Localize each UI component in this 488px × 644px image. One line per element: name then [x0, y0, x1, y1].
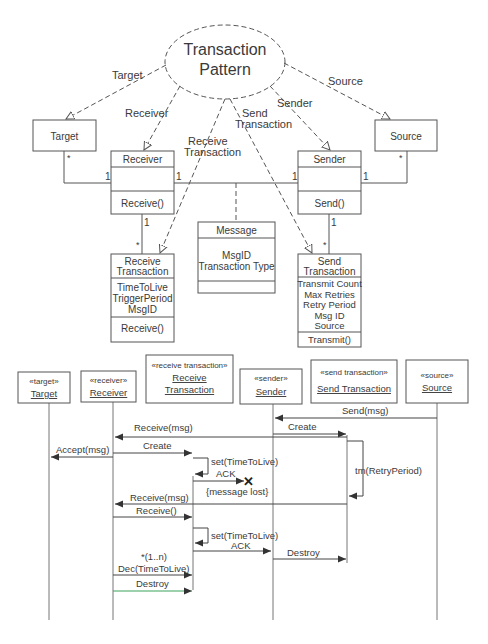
class-message-attr: MsgID	[222, 250, 251, 261]
sequence-diagram: «target» Target «receiver» Receiver «rec…	[18, 355, 468, 620]
svg-text:Create: Create	[288, 421, 317, 432]
messages: Send(msg) Create Receive(msg) Accept(msg…	[51, 405, 437, 591]
svg-text:Receive(msg): Receive(msg)	[134, 422, 193, 433]
class-diagram: Transaction Pattern Target Receiver Rece…	[33, 25, 437, 347]
svg-text:Target: Target	[31, 388, 58, 399]
class-receive-transaction: Receive Transaction TimeToLive TriggerPe…	[111, 254, 174, 342]
class-sender: Sender Send()	[298, 151, 361, 214]
multiplicity-sender-right: 1	[363, 171, 369, 182]
class-message: Message MsgID Transaction Type	[198, 222, 275, 293]
class-send-transaction-name: Transaction	[304, 266, 356, 277]
svg-text:Receive(msg): Receive(msg)	[130, 492, 189, 503]
svg-text:Send Transaction: Send Transaction	[317, 383, 391, 394]
class-receiver-name: Receiver	[123, 154, 163, 165]
class-target-name: Target	[51, 131, 79, 142]
class-send-transaction-attr: Max Retries	[304, 289, 355, 300]
svg-text:Create: Create	[143, 440, 172, 451]
svg-text:Destroy: Destroy	[136, 578, 169, 589]
lifeline-target: «target» Target	[18, 372, 70, 403]
class-message-name: Message	[216, 225, 257, 236]
svg-text:Receive: Receive	[172, 372, 206, 383]
svg-text:Receive(): Receive()	[136, 505, 177, 516]
class-receive-transaction-attr: TriggerPeriod	[112, 293, 172, 304]
svg-text:ACK: ACK	[216, 468, 236, 479]
svg-text:«target»: «target»	[29, 377, 59, 386]
lifelines	[49, 402, 437, 620]
class-send-transaction-attr: Retry Period	[303, 299, 356, 310]
class-send-transaction-operation: Transmit()	[308, 334, 351, 345]
class-receiver: Receiver Receive()	[111, 151, 174, 214]
class-receive-transaction-attr: TimeToLive	[117, 282, 168, 293]
class-receiver-operation: Receive()	[121, 198, 164, 209]
svg-text:{message lost}: {message lost}	[206, 486, 268, 497]
receive-transaction-role-label-2: Transaction	[184, 146, 241, 158]
svg-text:Transaction: Transaction	[165, 384, 214, 395]
lifeline-source: «source» Source	[406, 360, 468, 403]
class-send-transaction: Send Transaction Transmit Count Max Retr…	[297, 254, 362, 347]
class-source: Source	[375, 120, 437, 151]
svg-text:set(TimeToLive): set(TimeToLive)	[211, 456, 278, 467]
class-receive-transaction-attr: MsgID	[128, 304, 157, 315]
svg-text:«send transaction»: «send transaction»	[320, 368, 388, 377]
pattern-title-line2: Pattern	[199, 61, 251, 78]
class-receive-transaction-name: Transaction	[117, 266, 169, 277]
svg-text:tm(RetryPeriod): tm(RetryPeriod)	[355, 465, 422, 476]
send-transaction-role-label-2: Transaction	[235, 118, 292, 130]
transaction-pattern-collaboration: Transaction Pattern	[165, 25, 285, 99]
message-set-ttl-2	[193, 528, 208, 543]
source-role-arrow	[284, 63, 390, 119]
class-message-attr: Transaction Type	[198, 261, 275, 272]
target-role-label: Target	[112, 69, 143, 81]
svg-text:Accept(msg): Accept(msg)	[56, 444, 109, 455]
class-receive-transaction-operation: Receive()	[121, 323, 164, 334]
multiplicity-target: *	[67, 153, 71, 163]
message-set-ttl-1	[193, 458, 208, 474]
svg-text:Receiver: Receiver	[90, 387, 128, 398]
svg-text:Destroy: Destroy	[287, 547, 320, 558]
class-sender-operation: Send()	[314, 198, 344, 209]
multiplicity-receiver-left: 1	[105, 171, 111, 182]
svg-text:ACK: ACK	[231, 540, 251, 551]
lifeline-sender: «sender» Sender	[240, 369, 302, 404]
multiplicity-send-transaction: *	[323, 240, 327, 250]
multiplicity-receiver-bottom: 1	[144, 217, 150, 228]
class-sender-name: Sender	[313, 154, 346, 165]
sender-role-label: Sender	[277, 97, 313, 109]
svg-text:«sender»: «sender»	[254, 374, 288, 383]
svg-text:«receiver»: «receiver»	[90, 376, 128, 385]
svg-text:Sender: Sender	[256, 386, 287, 397]
pattern-title-line1: Transaction	[184, 41, 267, 58]
class-target: Target	[33, 120, 96, 151]
multiplicity-sender-bottom: 1	[331, 217, 337, 228]
class-source-name: Source	[390, 131, 422, 142]
svg-text:Dec(TimeToLive): Dec(TimeToLive)	[118, 563, 189, 574]
svg-text:Source: Source	[422, 382, 452, 393]
svg-text:*(1..n): *(1..n)	[141, 551, 167, 562]
transaction-pattern-diagram: Transaction Pattern Target Receiver Rece…	[0, 0, 488, 644]
multiplicity-receive-transaction: *	[136, 240, 140, 250]
source-role-label: Source	[328, 75, 363, 87]
svg-text:«source»: «source»	[421, 371, 454, 380]
lifeline-receive-transaction: «receive transaction» Receive Transactio…	[146, 355, 233, 403]
multiplicity-sender-left: 1	[292, 171, 298, 182]
multiplicity-source: *	[399, 153, 403, 163]
lifeline-send-transaction: «send transaction» Send Transaction	[311, 360, 397, 403]
lifeline-receiver: «receiver» Receiver	[81, 371, 136, 402]
svg-text:Send(msg): Send(msg)	[342, 405, 388, 416]
class-send-transaction-attr: Msg ID	[314, 310, 344, 321]
class-send-transaction-attr: Source	[314, 320, 344, 331]
class-send-transaction-attr: Transmit Count	[297, 278, 362, 289]
receiver-role-label: Receiver	[125, 107, 169, 119]
svg-text:«receive transaction»: «receive transaction»	[151, 361, 228, 370]
multiplicity-receiver-right: 1	[176, 171, 182, 182]
